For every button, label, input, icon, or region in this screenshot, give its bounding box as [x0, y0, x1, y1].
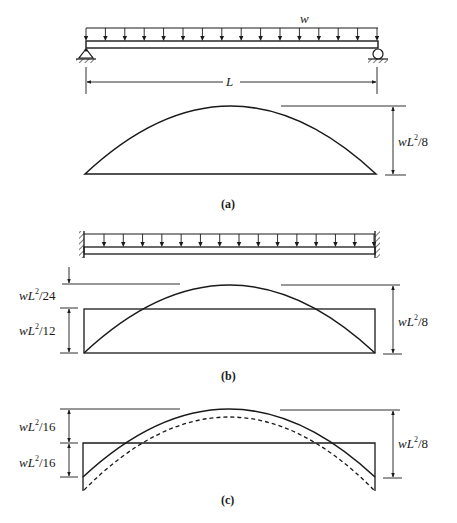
moment-diagram-figure: w L	[0, 0, 457, 523]
fixed-wall-icon	[79, 231, 84, 258]
moment-diagram-c: wL2/16 wL2/16 wL2/8	[19, 409, 428, 491]
max-moment-label: wL2/8	[398, 313, 428, 329]
distributed-load-icon	[84, 234, 376, 247]
roller-icon	[368, 49, 388, 63]
fixed-wall-icon	[375, 231, 380, 258]
beam	[86, 41, 378, 48]
caption-b: (b)	[221, 369, 236, 383]
span-label: L	[225, 74, 233, 89]
moment-diagram-b: wL2/24 wL2/12 wL2/8	[19, 267, 428, 354]
upper-half-moment-label: wL2/16	[19, 418, 56, 434]
beam	[84, 247, 375, 254]
distributed-load-icon	[84, 28, 379, 41]
load-label: w	[300, 11, 309, 26]
max-moment-label: wL2/8	[398, 133, 428, 149]
pin-icon	[76, 49, 96, 64]
moment-diagram-a: wL2/8	[85, 106, 428, 175]
max-moment-label: wL2/8	[398, 435, 428, 451]
panel-c: wL2/16 wL2/16 wL2/8 (c)	[19, 409, 428, 507]
fixed-end-offset-label: wL2/24	[19, 287, 56, 303]
caption-a: (a)	[221, 197, 235, 211]
lower-half-moment-label: wL2/16	[19, 454, 56, 470]
caption-c: (c)	[221, 493, 234, 507]
panel-a: w L	[76, 11, 428, 211]
panel-b: wL2/24 wL2/12 wL2/8 (b)	[19, 231, 428, 383]
fixed-end-moment-label: wL2/12	[19, 322, 56, 338]
simply-supported-beam: w L	[76, 11, 388, 94]
span-dimension: L	[86, 67, 377, 94]
fixed-fixed-beam	[79, 231, 380, 258]
